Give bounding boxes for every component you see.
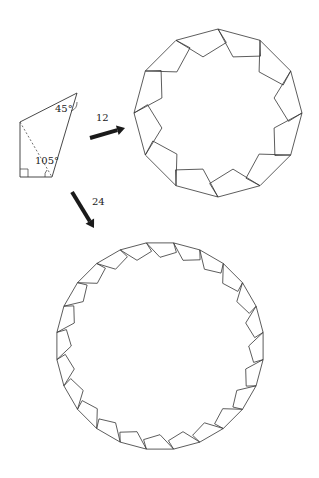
ring-tile [233, 386, 256, 410]
ring-tile [176, 29, 226, 57]
ring-tile [174, 243, 201, 260]
ring-tile [274, 113, 302, 156]
ring-tile [134, 71, 162, 114]
tiling-diagram [0, 0, 319, 478]
ring-24-tiles [57, 243, 263, 449]
arrows [72, 125, 125, 228]
ring-tile [215, 409, 243, 429]
ring-tile [64, 283, 87, 307]
ring-tile [223, 264, 243, 292]
angle-label-105: 105° [35, 155, 59, 166]
ring-tile [176, 169, 219, 197]
ring-tile [120, 243, 151, 260]
ring-tile [210, 169, 260, 197]
arrow-label-24: 24 [92, 196, 105, 207]
ring-tile [78, 264, 106, 284]
right-angle-marker [20, 169, 28, 177]
ring-tile [200, 250, 224, 273]
arrow-24-shaft [72, 192, 90, 221]
arrow-label-12: 12 [96, 112, 109, 123]
ring-tile [274, 71, 302, 121]
ring-tile [168, 432, 199, 449]
ring-tile [120, 432, 146, 449]
arrow-12-shaft [90, 130, 117, 138]
angle-label-45: 45° [55, 103, 73, 114]
ring-tile [134, 105, 162, 155]
ring-tile [57, 306, 74, 333]
ring-12-tiles [134, 29, 302, 197]
ring-tile [97, 419, 121, 442]
ring-tile [57, 354, 74, 385]
angle-arc-bottom [45, 170, 47, 177]
ring-tile [78, 401, 98, 429]
ring-tile [246, 360, 263, 387]
ring-tile [246, 306, 263, 337]
ring-tile [218, 29, 261, 57]
